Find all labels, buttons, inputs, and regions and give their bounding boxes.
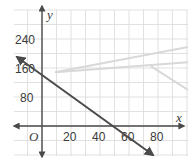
origin-label: O (29, 129, 39, 144)
x-axis: x (14, 110, 184, 126)
coordinate-plane-chart: x y O 20 40 60 80 80 160 240 (0, 0, 188, 162)
faint-line (55, 47, 188, 72)
y-axis-label: y (45, 7, 53, 22)
x-tick-label: 20 (63, 130, 77, 144)
x-tick-label: 40 (92, 130, 106, 144)
x-tick-label: 80 (150, 130, 164, 144)
x-axis-label: x (175, 110, 182, 125)
faint-line (55, 62, 188, 72)
x-tick-labels: 20 40 60 80 (63, 130, 164, 144)
y-tick-label: 240 (15, 33, 35, 47)
faint-line (151, 66, 188, 90)
y-tick-label: 80 (20, 91, 34, 105)
